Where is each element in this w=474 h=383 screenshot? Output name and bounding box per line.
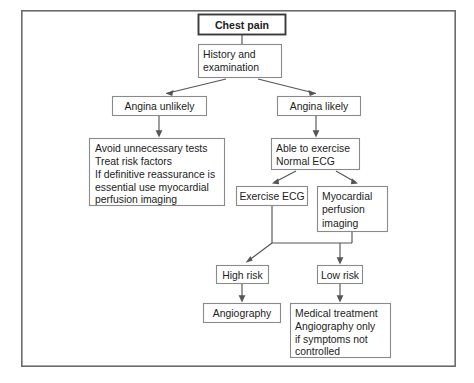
node-conservative-management[interactable]: Avoid unnecessary tests Treat risk facto…: [90, 139, 225, 206]
node-medical-treatment-line-4: controlled: [295, 346, 340, 357]
node-angiography-label: Angiography: [213, 308, 272, 319]
node-medical-treatment[interactable]: Medical treatment Angiography only if sy…: [291, 304, 391, 358]
node-able-to-exercise[interactable]: Able to exercise Normal ECG: [272, 139, 360, 170]
node-medical-treatment-line-1: Medical treatment: [295, 308, 378, 319]
node-conservative-management-line-3: If definitive reassurance is: [95, 169, 215, 180]
node-history-examination-line-2: examination: [203, 62, 259, 73]
edge-angina-unlikely-to-conservative: [156, 116, 163, 138]
node-medical-treatment-line-2: Angiography only: [295, 321, 376, 332]
node-history-examination[interactable]: History and examination: [199, 45, 282, 78]
node-angina-unlikely-label: Angina unlikely: [125, 101, 196, 112]
edge-able-to-exercise-to-myocardial: [336, 171, 358, 184]
edge-able-to-exercise-to-exercise-ecg: [272, 171, 296, 184]
edge-myocardial-to-low-risk: [337, 232, 352, 265]
node-chest-pain[interactable]: Chest pain: [199, 15, 286, 35]
node-angina-likely[interactable]: Angina likely: [278, 97, 361, 116]
edge-high-risk-to-angiography: [239, 284, 246, 303]
flowchart-canvas: Chest pain History and examination Angin…: [0, 0, 474, 383]
node-angina-likely-label: Angina likely: [290, 101, 349, 112]
node-history-examination-line-1: History and: [203, 49, 256, 60]
node-conservative-management-line-5: perfusion imaging: [95, 194, 177, 205]
node-high-risk[interactable]: High risk: [217, 266, 269, 284]
node-high-risk-label: High risk: [222, 270, 263, 281]
node-able-to-exercise-line-2: Normal ECG: [276, 156, 335, 167]
node-medical-treatment-line-3: if symptoms not: [295, 334, 368, 345]
edge-angina-likely-to-able-to-exercise: [313, 116, 320, 138]
edge-low-risk-to-medical-treatment: [337, 284, 344, 303]
node-exercise-ecg[interactable]: Exercise ECG: [237, 187, 308, 206]
node-angiography[interactable]: Angiography: [204, 304, 281, 323]
node-angina-unlikely[interactable]: Angina unlikely: [113, 97, 207, 116]
node-conservative-management-line-4: essential use myocardial: [95, 182, 209, 193]
node-myocardial-line-1: Myocardial: [322, 191, 372, 202]
node-myocardial-perfusion-imaging[interactable]: Myocardial perfusion imaging: [318, 187, 388, 232]
node-conservative-management-line-2: Treat risk factors: [95, 156, 172, 167]
node-exercise-ecg-label: Exercise ECG: [239, 191, 304, 202]
node-myocardial-line-3: imaging: [322, 218, 359, 229]
chest-pain-flowchart: Chest pain History and examination Angin…: [0, 0, 474, 383]
node-conservative-management-line-1: Avoid unnecessary tests: [95, 143, 207, 154]
node-able-to-exercise-line-1: Able to exercise: [276, 143, 350, 154]
node-myocardial-line-2: perfusion: [322, 204, 365, 215]
node-low-risk-label: Low risk: [321, 270, 360, 281]
edge-history-to-angina-unlikely: [166, 79, 226, 96]
node-low-risk[interactable]: Low risk: [318, 266, 363, 284]
node-chest-pain-label: Chest pain: [215, 19, 269, 31]
edge-history-to-angina-likely: [258, 79, 316, 96]
